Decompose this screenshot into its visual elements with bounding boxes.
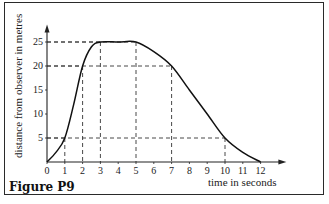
x-tick-label: 7	[169, 165, 174, 176]
y-tick-label: 5	[38, 132, 43, 143]
x-tick-label: 11	[238, 165, 248, 176]
x-tick-label: 12	[256, 165, 266, 176]
y-tick-label: 20	[33, 60, 43, 71]
tick-labels: 0123456789101112510152025	[33, 36, 266, 176]
x-tick-label: 8	[187, 165, 192, 176]
x-tick-label: 0	[45, 165, 50, 176]
y-axis-label: distance from observer in metres	[12, 14, 24, 158]
y-tick-label: 10	[33, 108, 43, 119]
x-tick-label: 1	[62, 165, 67, 176]
x-tick-label: 10	[220, 165, 230, 176]
x-tick-label: 3	[98, 165, 103, 176]
x-tick-label: 9	[205, 165, 210, 176]
axes	[45, 24, 287, 164]
x-tick-label: 2	[80, 165, 85, 176]
y-tick-label: 15	[33, 84, 43, 95]
figure-caption: Figure P9	[9, 180, 75, 194]
x-tick-label: 5	[134, 165, 139, 176]
distance-curve	[47, 41, 261, 162]
x-tick-label: 6	[151, 165, 156, 176]
x-tick-label: 4	[116, 165, 121, 176]
x-axis-label: time in seconds	[208, 176, 276, 188]
y-tick-label: 25	[33, 36, 43, 47]
distance-time-chart: 0123456789101112510152025	[0, 0, 329, 204]
